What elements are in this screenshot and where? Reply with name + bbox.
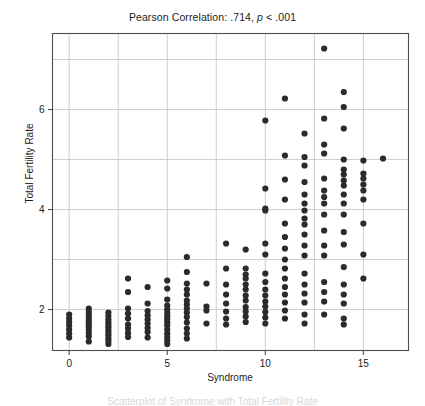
data-point: [203, 280, 209, 286]
data-point: [341, 321, 347, 327]
y-axis-label: Total Fertility Rate: [24, 104, 35, 224]
data-point: [341, 182, 347, 188]
data-point: [184, 291, 190, 297]
data-point: [321, 200, 327, 206]
data-point: [262, 314, 268, 320]
x-tick-label: 0: [66, 358, 72, 369]
data-point: [262, 286, 268, 292]
data-point: [321, 187, 327, 193]
data-point: [203, 307, 209, 313]
data-point: [262, 117, 268, 123]
scatter-plot-figure: Pearson Correlation: .714, p < .001 0510…: [0, 0, 425, 406]
data-point: [301, 215, 307, 221]
data-point: [223, 281, 229, 287]
data-point: [223, 315, 229, 321]
data-point: [184, 269, 190, 275]
data-point: [341, 171, 347, 177]
data-point: [321, 115, 327, 121]
x-axis-label: Syndrome: [52, 372, 408, 383]
data-point: [164, 341, 170, 347]
data-point: [360, 187, 366, 193]
data-point: [301, 290, 307, 296]
data-point: [282, 284, 288, 290]
data-point: [125, 334, 131, 340]
data-point: [341, 156, 347, 162]
data-point: [301, 191, 307, 197]
data-point: [282, 152, 288, 158]
data-point: [184, 254, 190, 260]
data-point: [321, 141, 327, 147]
data-point: [321, 289, 327, 295]
data-point: [262, 185, 268, 191]
data-point: [164, 296, 170, 302]
data-point: [341, 211, 347, 217]
data-point: [125, 275, 131, 281]
data-point: [360, 175, 366, 181]
data-point: [66, 334, 72, 340]
data-point: [321, 175, 327, 181]
y-tick-label: 6: [39, 104, 45, 115]
data-point: [341, 200, 347, 206]
data-point: [341, 89, 347, 95]
data-point: [301, 320, 307, 326]
data-point: [262, 309, 268, 315]
data-point: [301, 162, 307, 168]
data-point: [321, 227, 327, 233]
plot-canvas: 051015246: [0, 0, 425, 406]
data-point: [262, 240, 268, 246]
data-point: [301, 200, 307, 206]
data-point: [360, 181, 366, 187]
data-point: [125, 289, 131, 295]
data-point: [301, 179, 307, 185]
data-point: [301, 242, 307, 248]
data-point: [282, 245, 288, 251]
data-point: [184, 335, 190, 341]
data-point: [243, 275, 249, 281]
data-point: [282, 265, 288, 271]
data-point: [301, 281, 307, 287]
data-point: [164, 277, 170, 283]
data-point: [223, 240, 229, 246]
data-point: [282, 315, 288, 321]
data-point: [282, 176, 288, 182]
data-point: [321, 194, 327, 200]
data-point: [262, 207, 268, 213]
data-point: [164, 285, 170, 291]
data-point: [223, 321, 229, 327]
data-point: [223, 308, 229, 314]
data-point: [282, 220, 288, 226]
data-point: [282, 291, 288, 297]
data-point: [145, 329, 151, 335]
data-point: [341, 241, 347, 247]
data-point: [262, 251, 268, 257]
data-point: [380, 155, 386, 161]
data-points-layer: [66, 45, 386, 347]
x-tick-label: 5: [164, 358, 170, 369]
data-point: [282, 275, 288, 281]
data-point: [341, 229, 347, 235]
data-point: [262, 303, 268, 309]
data-point: [341, 125, 347, 131]
data-point: [203, 320, 209, 326]
data-point: [105, 341, 111, 347]
data-point: [243, 286, 249, 292]
data-point: [262, 292, 268, 298]
data-point: [145, 334, 151, 340]
data-point: [184, 319, 190, 325]
data-point: [301, 221, 307, 227]
data-point: [262, 320, 268, 326]
data-point: [360, 196, 366, 202]
data-point: [341, 315, 347, 321]
data-point: [321, 150, 327, 156]
data-point: [243, 313, 249, 319]
data-point: [243, 319, 249, 325]
data-point: [360, 220, 366, 226]
data-point: [282, 196, 288, 202]
data-point: [341, 264, 347, 270]
data-point: [321, 311, 327, 317]
y-tick-label: 4: [39, 204, 45, 215]
data-point: [360, 275, 366, 281]
data-point: [341, 104, 347, 110]
grid-layer: [53, 34, 409, 351]
data-point: [301, 299, 307, 305]
